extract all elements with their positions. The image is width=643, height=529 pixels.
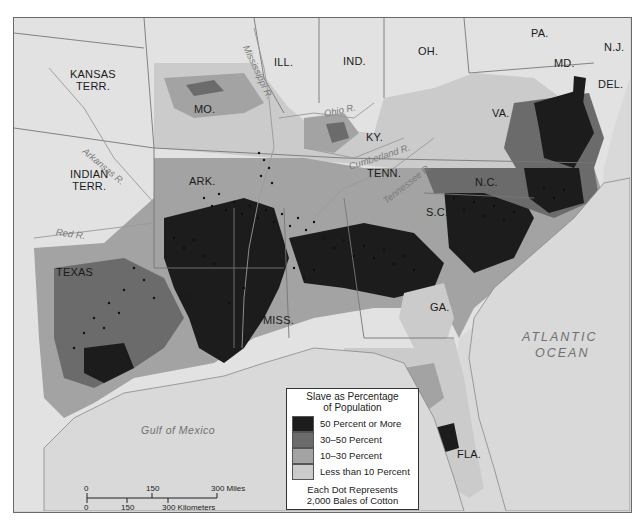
scale-km-150: 150 [121,503,134,512]
legend-title: Slave as Percentage of Population [287,391,418,413]
label-ala: ALA. [321,230,346,242]
label-nc: N.C. [475,176,498,188]
label-tenn: TENN. [367,167,401,179]
legend-item-30-50: 30–50 Percent [292,432,418,448]
label-ind: IND. [343,55,366,67]
label-ky: KY. [366,131,383,143]
label-atlantic: ATLANTIC [522,330,598,344]
scale-km-300: 300 Kilometers [162,503,215,512]
label-del: DEL. [598,78,623,90]
label-miss: MISS. [263,314,294,326]
scale-bar: 0 150 300 Miles 0 150 300 Kilometers [82,485,312,515]
label-kansas-terr: KANSAS TERR. [70,68,116,92]
label-fla: FLA. [457,448,481,460]
label-mo: MO. [194,103,215,115]
label-la: LA. [179,290,196,302]
label-texas: TEXAS [56,266,93,278]
label-ark: ARK. [189,175,215,187]
scale-miles-300: 300 Miles [211,484,245,493]
label-ocean: OCEAN [535,346,589,360]
legend-item-under-10: Less than 10 Percent [292,464,418,480]
label-md: MD. [554,57,575,69]
legend-swatch [292,448,314,464]
scale-miles-0: 0 [84,484,88,493]
label-nj: N.J. [604,41,624,53]
legend-swatch [292,464,314,480]
label-ill: ILL. [274,56,293,68]
label-pa: PA. [531,27,549,39]
legend-item-10-30: 10–30 Percent [292,448,418,464]
label-ga: GA. [430,301,450,313]
legend-swatch [292,432,314,448]
scale-km-0: 0 [84,503,88,512]
legend-swatch [292,416,314,432]
label-oh: OH. [418,45,438,57]
label-sc: S.C. [426,206,448,218]
legend-item-50-plus: 50 Percent or More [292,416,418,432]
scale-miles-150: 150 [146,484,159,493]
label-gulf-of-mexico: Gulf of Mexico [141,424,215,436]
label-va: VA. [492,107,510,119]
